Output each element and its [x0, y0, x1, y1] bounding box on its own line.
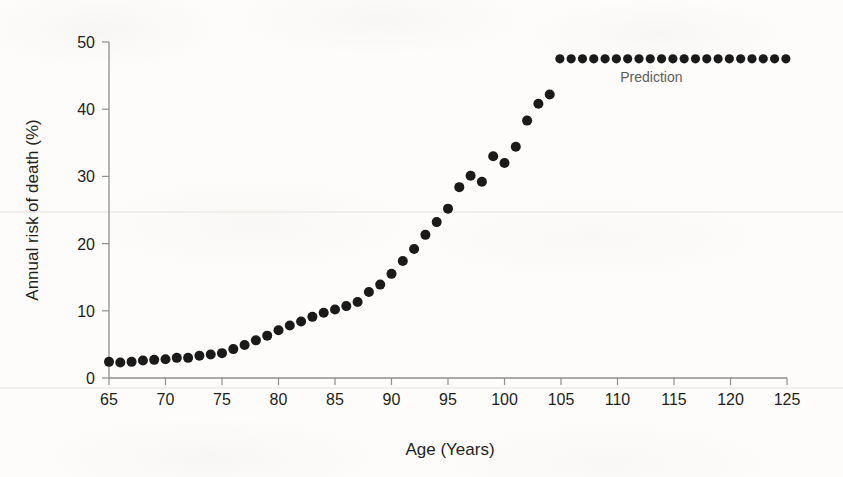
data-point [217, 348, 227, 358]
x-axis: 65707580859095100105110115120125 [100, 378, 800, 408]
x-axis-ticks [109, 378, 787, 385]
data-point [387, 269, 397, 279]
data-point [522, 116, 532, 126]
x-tick-label: 90 [383, 391, 401, 408]
data-point [206, 349, 216, 359]
data-point [262, 331, 272, 341]
data-point [409, 244, 419, 254]
data-point [488, 151, 498, 161]
data-point [567, 54, 576, 63]
data-point [466, 171, 476, 181]
data-point [375, 280, 385, 290]
x-tick-label: 85 [326, 391, 344, 408]
x-tick-label: 80 [270, 391, 288, 408]
data-point [307, 312, 317, 322]
data-point [477, 177, 487, 187]
data-point [341, 301, 351, 311]
y-axis: 01020304050 [77, 34, 109, 387]
data-point [781, 54, 790, 63]
y-tick-label: 20 [77, 236, 95, 253]
data-point [702, 54, 711, 63]
data-point [240, 340, 250, 350]
data-point [500, 158, 510, 168]
data-point [138, 356, 148, 366]
data-point [319, 308, 329, 318]
data-point [353, 297, 363, 307]
data-point [623, 54, 632, 63]
data-point [747, 54, 756, 63]
data-point [770, 54, 779, 63]
data-point [725, 54, 734, 63]
y-axis-tick-labels: 01020304050 [77, 34, 95, 387]
data-point [736, 54, 745, 63]
data-point [578, 54, 587, 63]
x-tick-label: 125 [774, 391, 801, 408]
data-point [533, 99, 543, 109]
x-tick-label: 110 [605, 391, 631, 408]
data-point [420, 230, 430, 240]
data-point [432, 217, 442, 227]
data-point [115, 358, 125, 368]
y-axis-ticks [102, 42, 109, 378]
data-point [600, 54, 609, 63]
data-point [555, 54, 564, 63]
data-point [161, 354, 171, 364]
data-point [330, 304, 340, 314]
data-point [713, 54, 722, 63]
data-point [228, 344, 238, 354]
prediction-data-series [555, 54, 790, 63]
data-point [274, 325, 284, 335]
data-point [454, 182, 464, 192]
x-tick-label: 70 [157, 391, 175, 408]
data-point [691, 54, 700, 63]
x-tick-label: 100 [491, 391, 518, 408]
x-tick-label: 120 [717, 391, 744, 408]
y-tick-label: 40 [77, 101, 95, 118]
x-tick-label: 75 [213, 391, 231, 408]
annual-risk-of-death-scatter-chart: 01020304050 6570758085909510010511011512… [0, 0, 843, 477]
x-axis-tick-labels: 65707580859095100105110115120125 [100, 391, 800, 408]
data-point [251, 335, 261, 345]
prediction-annotation-label: Prediction [620, 69, 682, 85]
data-point [194, 351, 204, 361]
x-axis-title: Age (Years) [405, 440, 494, 459]
data-point [127, 357, 137, 367]
y-tick-label: 0 [86, 370, 95, 387]
x-tick-label: 95 [439, 391, 457, 408]
data-point [149, 355, 159, 365]
y-tick-label: 50 [77, 34, 95, 51]
data-point [634, 54, 643, 63]
data-point [646, 54, 655, 63]
data-point [398, 256, 408, 266]
data-point [511, 142, 521, 152]
y-axis-title: Annual risk of death (%) [23, 119, 42, 300]
x-tick-label: 105 [548, 391, 575, 408]
data-point [680, 54, 689, 63]
data-point [183, 353, 193, 363]
x-tick-label: 65 [100, 391, 118, 408]
y-tick-label: 10 [77, 303, 95, 320]
y-tick-label: 30 [77, 168, 95, 185]
data-point [285, 321, 295, 331]
data-point [296, 317, 306, 327]
scan-artifact-rules [0, 212, 843, 388]
data-point [545, 89, 555, 99]
data-point [668, 54, 677, 63]
data-point [104, 357, 114, 367]
data-point [612, 54, 621, 63]
data-point [172, 353, 182, 363]
x-tick-label: 115 [661, 391, 687, 408]
observed-data-series [104, 89, 555, 367]
data-point [589, 54, 598, 63]
data-point [443, 204, 453, 214]
data-point [759, 54, 768, 63]
data-point [364, 287, 374, 297]
data-point [657, 54, 666, 63]
